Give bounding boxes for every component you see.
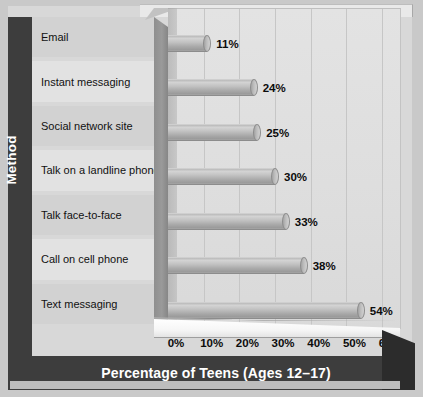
x-tick-50: 50% bbox=[343, 337, 366, 349]
x-tick-20: 20% bbox=[236, 337, 259, 349]
bar-1 bbox=[168, 79, 254, 96]
x-tick-40: 40% bbox=[307, 337, 330, 349]
bar-value-label-3: 30% bbox=[284, 172, 307, 184]
x-tick-10: 10% bbox=[200, 337, 223, 349]
gridline-60 bbox=[382, 9, 383, 329]
bar-cap-4 bbox=[282, 213, 290, 230]
bar-cap-6 bbox=[357, 302, 365, 319]
category-label-3: Talk on a landline phone bbox=[32, 150, 154, 190]
bar-3 bbox=[168, 168, 275, 185]
category-label-text: Talk on a landline phone bbox=[41, 164, 154, 176]
label-wall-right-face bbox=[154, 17, 168, 328]
bar-value-label-0: 11% bbox=[216, 39, 238, 51]
chart-plot-container: EmailInstant messagingSocial network sit… bbox=[32, 17, 400, 342]
chart-figure: Method Percentage of Teens (Ages 12–17) … bbox=[0, 0, 423, 397]
category-label-panel: EmailInstant messagingSocial network sit… bbox=[32, 17, 154, 328]
bar-cap-5 bbox=[300, 257, 308, 274]
category-label-6: Text messaging bbox=[32, 284, 154, 324]
gridline-40 bbox=[311, 9, 312, 329]
category-label-5: Call on cell phone bbox=[32, 239, 154, 279]
category-label-text: Call on cell phone bbox=[41, 253, 128, 265]
bar-cap-1 bbox=[250, 79, 258, 96]
category-label-4: Talk face-to-face bbox=[32, 195, 154, 235]
bar-6 bbox=[168, 302, 361, 319]
x-tick-30: 30% bbox=[272, 337, 295, 349]
category-label-text: Email bbox=[41, 31, 69, 43]
bar-value-label-1: 24% bbox=[263, 83, 286, 95]
category-label-text: Social network site bbox=[41, 120, 133, 132]
bar-2 bbox=[168, 124, 257, 141]
bar-value-label-6: 54% bbox=[370, 306, 393, 318]
x-tick-0: 0% bbox=[168, 337, 185, 349]
gridline-50 bbox=[346, 9, 347, 329]
bar-0 bbox=[168, 35, 207, 52]
y-axis-title: Method bbox=[0, 105, 24, 215]
category-label-2: Social network site bbox=[32, 106, 154, 146]
bar-4 bbox=[168, 213, 286, 230]
bar-5 bbox=[168, 257, 304, 274]
bar-value-label-5: 38% bbox=[313, 261, 336, 273]
bar-value-label-4: 33% bbox=[295, 217, 318, 229]
figure-bottom-shadow bbox=[10, 381, 400, 389]
category-label-text: Talk face-to-face bbox=[41, 209, 122, 221]
category-label-text: Text messaging bbox=[41, 298, 117, 310]
category-label-1: Instant messaging bbox=[32, 61, 154, 101]
category-label-0: Email bbox=[32, 17, 154, 57]
bar-value-label-2: 25% bbox=[266, 128, 289, 140]
category-label-text: Instant messaging bbox=[41, 76, 130, 88]
x-axis-tick-labels: 0%10%20%30%40%50%60% bbox=[154, 337, 404, 353]
